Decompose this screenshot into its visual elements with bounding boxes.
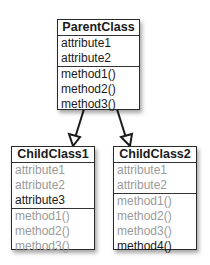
attribute: attribute2 (61, 51, 136, 66)
own-method: method4() (117, 239, 193, 254)
inherited-method: method3() (117, 224, 193, 239)
class-name: ChildClass2 (114, 147, 196, 163)
methods-section: method1() method2() method3() (58, 67, 139, 112)
inherited-method: method2() (15, 224, 91, 239)
arrowhead-childclass2-icon (121, 134, 132, 146)
methods-section: method1() method2() method3() (12, 209, 94, 254)
arrow-line-childclass2 (117, 109, 126, 138)
child-class-2-box: ChildClass2 attribute1 attribute2 method… (113, 146, 197, 250)
attribute: attribute1 (61, 36, 136, 51)
own-attribute: attribute3 (15, 193, 91, 208)
class-name: ParentClass (58, 20, 139, 36)
arrowhead-childclass1-icon (69, 134, 80, 146)
method: method2() (61, 82, 136, 97)
inherited-attribute: attribute1 (117, 163, 193, 178)
methods-section: method1() method2() method3() method4() (114, 194, 196, 254)
attributes-section: attribute1 attribute2 (114, 163, 196, 194)
class-name: ChildClass1 (12, 147, 94, 163)
inherited-method: method1() (15, 209, 91, 224)
child-class-1-box: ChildClass1 attribute1 attribute2 attrib… (11, 146, 95, 250)
method: method1() (61, 67, 136, 82)
attributes-section: attribute1 attribute2 (58, 36, 139, 67)
arrow-line-childclass1 (75, 109, 84, 138)
inherited-method: method2() (117, 209, 193, 224)
parent-class-box: ParentClass attribute1 attribute2 method… (57, 19, 140, 110)
method: method3() (61, 97, 136, 112)
inherited-attribute: attribute1 (15, 163, 91, 178)
inherited-attribute: attribute2 (15, 178, 91, 193)
inherited-attribute: attribute2 (117, 178, 193, 193)
inherited-method: method3() (15, 239, 91, 254)
attributes-section: attribute1 attribute2 attribute3 (12, 163, 94, 209)
inherited-method: method1() (117, 194, 193, 209)
